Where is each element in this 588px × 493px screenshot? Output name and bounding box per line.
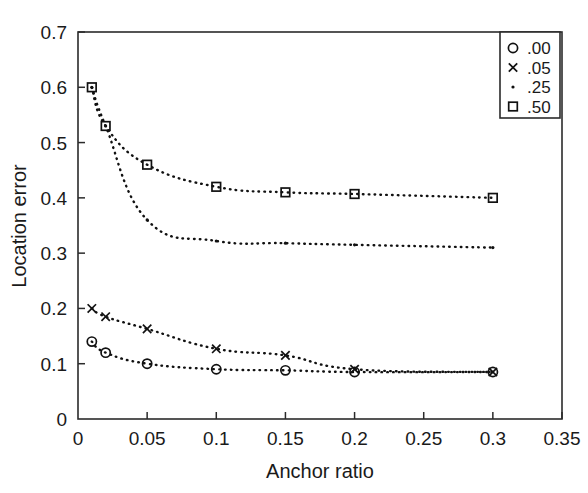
y-tick-label: 0.7	[41, 22, 67, 43]
chart-figure: 00.050.10.150.20.250.30.35 00.10.20.30.4…	[0, 0, 588, 493]
y-tick-label: 0.1	[41, 354, 67, 375]
location-error-vs-anchor-ratio-chart: 00.050.10.150.20.250.30.35 00.10.20.30.4…	[0, 0, 588, 493]
data-point	[284, 242, 287, 245]
y-tick-label: 0.5	[41, 133, 67, 154]
data-point	[353, 243, 356, 246]
y-axis-ticks	[78, 32, 85, 364]
y-tick-label: 0	[56, 409, 67, 430]
legend-marker-dot-icon	[511, 85, 514, 88]
y-axis-tick-labels: 00.10.20.30.40.50.60.7	[41, 22, 68, 430]
legend-item-label: .50	[527, 98, 551, 117]
chart-legend: .00.05.25.50	[500, 32, 560, 118]
legend-item-label: .25	[527, 78, 551, 97]
x-tick-label: 0.1	[203, 428, 229, 449]
x-tick-label: 0.15	[267, 428, 304, 449]
data-series-50	[88, 83, 498, 202]
data-point	[143, 325, 151, 333]
x-tick-label: 0.25	[405, 428, 442, 449]
y-axis-title: Location error	[8, 164, 30, 288]
data-point	[215, 239, 218, 242]
series-line	[92, 87, 493, 198]
legend-item-label: .05	[527, 59, 551, 78]
x-tick-label: 0.35	[544, 428, 581, 449]
x-tick-label: 0.05	[129, 428, 166, 449]
data-point	[491, 246, 494, 249]
data-series-layer	[87, 83, 497, 377]
data-point	[101, 313, 109, 321]
y-tick-label: 0.3	[41, 243, 67, 264]
data-point	[88, 304, 96, 312]
x-axis-title: Anchor ratio	[266, 460, 374, 482]
data-series-05	[88, 304, 497, 376]
y-tick-label: 0.6	[41, 77, 67, 98]
x-tick-label: 0.3	[480, 428, 506, 449]
y-tick-label: 0.4	[41, 188, 68, 209]
data-point	[146, 218, 149, 221]
x-tick-label: 0	[73, 428, 84, 449]
x-axis-ticks	[147, 412, 562, 419]
y-tick-label: 0.2	[41, 298, 67, 319]
x-axis-tick-labels: 00.050.10.150.20.250.30.35	[73, 428, 581, 449]
legend-item-label: .00	[527, 39, 551, 58]
x-tick-label: 0.2	[341, 428, 367, 449]
